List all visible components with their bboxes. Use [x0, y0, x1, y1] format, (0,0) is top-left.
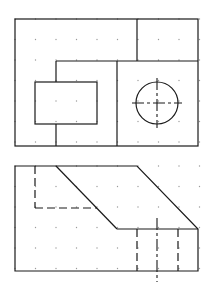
- grid-dot: [137, 186, 138, 187]
- grid-dot: [199, 186, 200, 187]
- grid-dot: [137, 206, 138, 207]
- grid-dot: [76, 268, 77, 269]
- grid-dot: [199, 227, 200, 228]
- grid-dot: [117, 227, 118, 228]
- grid-dot: [55, 100, 56, 101]
- top-view: [15, 19, 198, 146]
- grid-dot: [55, 247, 56, 248]
- grid-dot: [199, 80, 200, 81]
- grid-dot: [35, 59, 36, 60]
- grid-dot: [199, 59, 200, 60]
- grid-dot: [158, 141, 159, 142]
- grid-dot: [55, 206, 56, 207]
- grid-dot: [76, 100, 77, 101]
- grid-dot: [55, 186, 56, 187]
- grid-dot: [199, 206, 200, 207]
- top-view-inner-rectangle: [35, 82, 97, 124]
- edge-line: [56, 166, 117, 229]
- grid-dot: [158, 80, 159, 81]
- grid-dot: [199, 141, 200, 142]
- grid-dot: [76, 80, 77, 81]
- grid-dot: [96, 80, 97, 81]
- hole-centerlines: [132, 78, 182, 128]
- grid-dot: [158, 39, 159, 40]
- grid-dot: [117, 206, 118, 207]
- grid-dot: [178, 80, 179, 81]
- grid-dot: [158, 121, 159, 122]
- grid-dot: [199, 18, 200, 19]
- grid-dot: [178, 165, 179, 166]
- grid-dot: [96, 247, 97, 248]
- grid-dot: [76, 141, 77, 142]
- grid-dot: [137, 227, 138, 228]
- grid-dot: [178, 141, 179, 142]
- grid-dot: [137, 100, 138, 101]
- grid-dot: [55, 227, 56, 228]
- grid-dot: [55, 268, 56, 269]
- grid-dot: [35, 141, 36, 142]
- grid-dot: [158, 247, 159, 248]
- grid-dot: [137, 141, 138, 142]
- front-view: [15, 166, 198, 282]
- grid-dot: [76, 39, 77, 40]
- grid-dot: [199, 268, 200, 269]
- grid-dot: [199, 39, 200, 40]
- grid-dot: [158, 165, 159, 166]
- grid-dot: [199, 165, 200, 166]
- grid-dot: [96, 39, 97, 40]
- grid-dot: [137, 121, 138, 122]
- grid-dot: [117, 247, 118, 248]
- grid-dot: [76, 247, 77, 248]
- grid-dot: [158, 100, 159, 101]
- grid-dot: [96, 227, 97, 228]
- grid-dot: [35, 247, 36, 248]
- grid-dot: [158, 268, 159, 269]
- grid-dot: [178, 39, 179, 40]
- grid-dot: [117, 186, 118, 187]
- grid-dot: [76, 227, 77, 228]
- grid-dot: [117, 268, 118, 269]
- grid-dot: [35, 39, 36, 40]
- grid-dot: [178, 186, 179, 187]
- grid-dot: [96, 186, 97, 187]
- grid-dot: [35, 80, 36, 81]
- grid-dot: [35, 186, 36, 187]
- grid-dot: [96, 141, 97, 142]
- grid-dot: [76, 121, 77, 122]
- grid-dot: [96, 268, 97, 269]
- front-view-edges: [56, 166, 198, 229]
- grid-dot: [178, 121, 179, 122]
- grid-dot: [55, 121, 56, 122]
- grid-dot: [158, 227, 159, 228]
- grid-dot: [199, 100, 200, 101]
- grid-dot: [158, 206, 159, 207]
- grid-dot: [178, 227, 179, 228]
- grid-dot: [117, 39, 118, 40]
- technical-drawing: [0, 0, 212, 295]
- grid-dot: [199, 247, 200, 248]
- grid-dot: [178, 206, 179, 207]
- grid-dot: [35, 268, 36, 269]
- grid-dot: [35, 227, 36, 228]
- grid-dot: [137, 80, 138, 81]
- grid-dot: [199, 121, 200, 122]
- grid-dots-bottom: [14, 165, 200, 269]
- grid-dot: [55, 39, 56, 40]
